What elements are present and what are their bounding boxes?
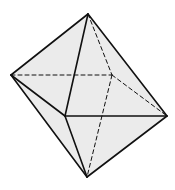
- octahedron-fill: [11, 14, 167, 177]
- octahedron-diagram: [0, 0, 175, 190]
